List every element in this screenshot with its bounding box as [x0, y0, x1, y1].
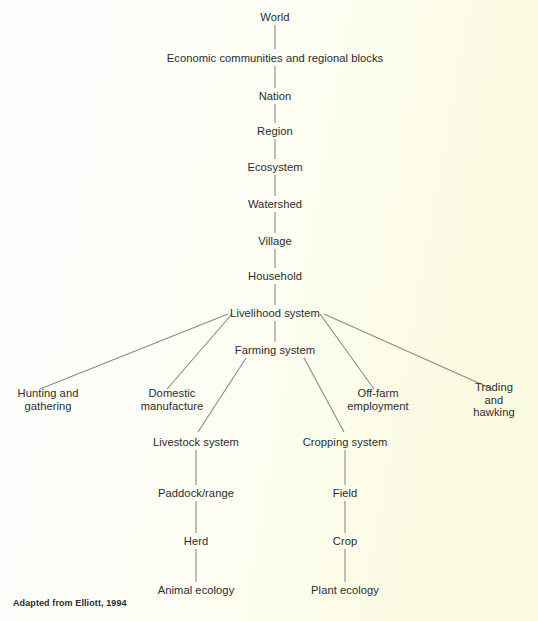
node-trading-and-hawking: Trading and hawking: [472, 381, 516, 419]
node-economic-communities: Economic communities and regional blocks: [167, 52, 384, 65]
edge-livelihood-trading: [324, 314, 492, 389]
node-domestic-manufacture: Domestic manufacture: [141, 387, 204, 412]
edge-livelihood-hunting: [40, 314, 228, 389]
node-watershed: Watershed: [248, 198, 302, 211]
node-livestock-system: Livestock system: [153, 436, 239, 449]
node-world: World: [260, 11, 289, 24]
node-cropping-system: Cropping system: [303, 436, 388, 449]
edge-livelihood-domestic: [167, 314, 232, 389]
node-crop: Crop: [333, 535, 357, 548]
node-herd: Herd: [184, 535, 208, 548]
node-plant-ecology: Plant ecology: [311, 584, 379, 597]
hierarchy-diagram: World Economic communities and regional …: [0, 0, 538, 621]
node-household: Household: [248, 270, 302, 283]
edge-livelihood-offfarm: [320, 314, 374, 389]
node-field: Field: [333, 487, 358, 500]
node-village: Village: [258, 235, 292, 248]
node-hunting-and-gathering: Hunting and gathering: [18, 387, 79, 412]
edge-farming-cropping: [304, 358, 344, 432]
node-nation: Nation: [259, 90, 292, 103]
node-off-farm-employment: Off-farm employment: [347, 387, 408, 412]
node-paddock-range: Paddock/range: [158, 487, 234, 500]
node-region: Region: [257, 125, 293, 138]
edge-farming-livestock: [198, 358, 246, 432]
source-caption: Adapted from Elliott, 1994: [13, 598, 127, 608]
node-livelihood-system: Livelihood system: [230, 307, 320, 320]
node-ecosystem: Ecosystem: [247, 161, 302, 174]
node-animal-ecology: Animal ecology: [158, 584, 235, 597]
node-farming-system: Farming system: [235, 344, 315, 357]
